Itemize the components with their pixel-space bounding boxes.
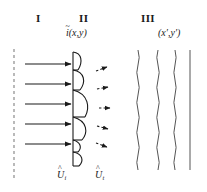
- hat-accent-glyph-transmitted: U ^: [95, 170, 102, 180]
- profile-arc: [73, 140, 80, 152]
- input-field-accent: ~: [66, 23, 70, 31]
- input-field-label: i ~ (x,y): [66, 28, 87, 38]
- wavefront-wavy-3: [174, 50, 176, 170]
- transmitted-velocity-label: U ^ t: [95, 170, 104, 181]
- incident-wave-arrows: [25, 64, 71, 144]
- incident-velocity-accent: ^: [58, 165, 62, 173]
- incident-velocity-label: U ^ i: [57, 170, 66, 181]
- optical-propagation-diagram: I II III i ~ (x,y) (x′,y′) U ^ i U ^ t: [0, 0, 207, 192]
- output-coordinate-label: (x′,y′): [158, 28, 180, 38]
- profile-arc: [73, 152, 82, 166]
- tilde-accent-glyph: i ~: [66, 28, 69, 38]
- diffracted-arrow: [97, 87, 108, 89]
- profile-arc: [73, 70, 84, 90]
- profile-arc: [73, 90, 88, 117]
- diffracted-arrow: [96, 143, 107, 147]
- wavefront-lines: [137, 50, 190, 170]
- region-label-one: I: [36, 13, 41, 24]
- aperture-profile-arcs: [73, 52, 88, 166]
- profile-arc: [73, 52, 81, 70]
- transmitted-velocity-subscript: t: [103, 174, 105, 181]
- hat-accent-glyph-incident: U ^: [57, 170, 64, 180]
- diffracted-arrow: [96, 67, 107, 71]
- diffracted-wave-arrows: [96, 67, 110, 147]
- input-field-args: (x,y): [69, 27, 87, 38]
- incident-velocity-subscript: i: [65, 174, 67, 181]
- diffracted-arrow: [97, 126, 108, 129]
- region-label-three: III: [141, 13, 155, 24]
- wavefront-wavy-1: [137, 50, 139, 170]
- profile-arc: [73, 117, 86, 140]
- transmitted-velocity-accent: ^: [96, 165, 100, 173]
- region-label-two: II: [79, 13, 88, 24]
- wavefront-wavy-2: [157, 50, 159, 170]
